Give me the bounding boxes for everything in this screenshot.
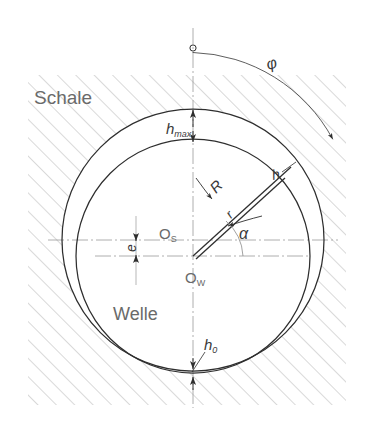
diagram-canvas: φ R r α h hmax h0 e	[0, 0, 374, 428]
eccentricity-label: e	[123, 244, 139, 252]
shell-label: Schale	[34, 87, 92, 108]
journal-bearing-diagram: φ R r α h hmax h0 e	[0, 0, 374, 428]
phi-label: φ	[264, 54, 279, 73]
alpha-label: α	[239, 225, 249, 242]
shaft-label: Welle	[113, 304, 158, 324]
